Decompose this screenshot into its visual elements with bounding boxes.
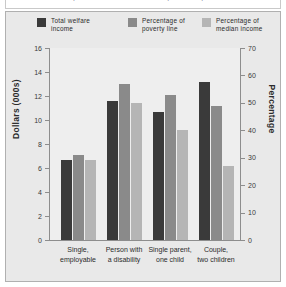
chart-title-strip: welfare incomes, in 2004 constant dollar… [5,0,281,9]
y-axis-tick-left [45,168,49,169]
y-axis-tick-right [241,48,245,49]
y-axis-tick-left [45,72,49,73]
legend-label: Percentage of median income [216,17,263,34]
y-axis-tick-label-left: 10 [34,117,42,124]
y-axis-tick-right [241,103,245,104]
y-axis-tick-label-left: 16 [34,45,42,52]
y-axis-tick-right [241,240,245,241]
y-axis-tick-right [241,75,245,76]
bar [165,95,176,240]
y-axis-tick-left [45,192,49,193]
y-axis-tick-label-right: 60 [248,72,256,79]
bar-group [61,48,96,240]
y-axis-tick-label-left: 2 [38,213,42,220]
y-axis-left [49,48,50,241]
legend-swatch-icon [128,18,137,27]
chart-legend: Total welfare income Percentage of pover… [6,17,282,43]
bar [211,106,222,240]
y-axis-tick-left [45,216,49,217]
y-axis-tick-right [241,130,245,131]
bar [85,160,96,240]
bar [199,82,210,240]
bar [119,84,130,240]
y-axis-tick-label-right: 20 [248,182,256,189]
y-axis-label-right: Percentage [266,12,278,205]
bar [73,155,84,240]
x-axis [49,240,241,241]
bar-group [107,48,142,240]
bar-group [199,48,234,240]
chart-panel: Total welfare income Percentage of pover… [5,11,281,282]
y-axis-tick-label-left: 6 [38,165,42,172]
y-axis-tick-label-left: 0 [38,237,42,244]
y-axis-tick-label-left: 8 [38,141,42,148]
bar [177,130,188,240]
chart-page: welfare incomes, in 2004 constant dollar… [0,0,286,287]
y-axis-tick-right [241,185,245,186]
y-axis-tick-label-right: 0 [248,237,252,244]
legend-swatch-icon [202,18,211,27]
legend-item-total-welfare-income: Total welfare income [37,17,90,34]
legend-item-percentage-of-median-income: Percentage of median income [202,17,263,34]
legend-item-percentage-of-poverty-line: Percentage of poverty line [128,17,185,34]
y-axis-tick-right [241,213,245,214]
y-axis-label-left: Dollars (000s) [10,12,22,205]
legend-swatch-icon [37,18,46,27]
bar [223,166,234,240]
y-axis-tick-left [45,144,49,145]
y-axis-tick-label-left: 12 [34,93,42,100]
y-axis-tick-label-right: 40 [248,127,256,134]
y-axis-tick-label-left: 14 [34,69,42,76]
y-axis-tick-label-left: 4 [38,189,42,196]
legend-label: Total welfare income [51,17,90,34]
y-axis-tick-right [241,158,245,159]
bar [107,101,118,240]
y-axis-tick-left [45,240,49,241]
y-axis-tick-left [45,120,49,121]
y-axis-tick-label-right: 30 [248,154,256,161]
x-axis-category-label: Couple, two children [183,245,249,264]
bar [131,103,142,240]
y-axis-tick-label-right: 50 [248,99,256,106]
legend-label: Percentage of poverty line [142,17,185,34]
plot-area: 0246810121416010203040506070Single, empl… [49,48,241,241]
bar [153,112,164,240]
y-axis-tick-label-right: 70 [248,45,256,52]
y-axis-tick-label-right: 10 [248,209,256,216]
page-title: welfare incomes, in 2004 constant dollar… [12,0,280,2]
bar [61,160,72,240]
y-axis-tick-left [45,96,49,97]
bar-group [153,48,188,240]
y-axis-tick-left [45,48,49,49]
